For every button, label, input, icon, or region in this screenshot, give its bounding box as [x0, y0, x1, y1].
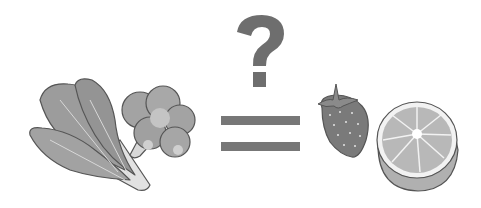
broccoli-icon — [122, 86, 195, 158]
strawberry-icon — [318, 84, 368, 157]
question-mark-icon — [237, 15, 284, 87]
equals-sign-icon — [221, 116, 300, 151]
orange-half-icon — [377, 102, 458, 191]
